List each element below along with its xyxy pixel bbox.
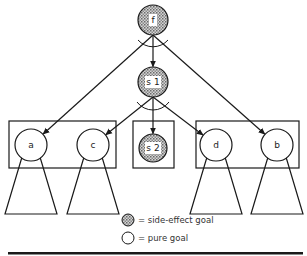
node-s2: s 2 xyxy=(139,134,167,162)
node-label: d xyxy=(213,140,219,150)
subtrees xyxy=(5,157,303,214)
node-f: f xyxy=(138,5,168,35)
node-c: c xyxy=(77,129,109,161)
goal-tree-diagram: fs 1acs 2db = side-effect goal = pure go… xyxy=(0,0,307,256)
node-b: b xyxy=(261,129,293,161)
edge-s1-to-c xyxy=(106,97,153,135)
node-label: a xyxy=(28,140,34,150)
subtree-b xyxy=(251,157,303,214)
subtree-d xyxy=(190,157,242,214)
node-d: d xyxy=(200,129,232,161)
bottom-rule xyxy=(8,252,303,255)
legend: = side-effect goal = pure goal xyxy=(122,214,214,244)
node-label: b xyxy=(274,140,280,150)
legend-side-effect-swatch xyxy=(122,214,134,226)
node-label: s 1 xyxy=(146,77,159,87)
node-label: s 2 xyxy=(146,143,159,153)
edge-f-to-b xyxy=(153,35,265,134)
legend-pure-swatch xyxy=(122,232,134,244)
edge-s1-to-d xyxy=(153,97,203,135)
nodes: fs 1acs 2db xyxy=(15,5,293,162)
edge-f-to-a xyxy=(43,35,153,134)
subtree-a xyxy=(5,157,57,214)
legend-side-effect-label: = side-effect goal xyxy=(138,215,214,225)
legend-pure-label: = pure goal xyxy=(138,233,188,243)
node-a: a xyxy=(15,129,47,161)
node-label: c xyxy=(91,140,96,150)
subtree-c xyxy=(67,157,119,214)
node-s1: s 1 xyxy=(138,67,168,97)
